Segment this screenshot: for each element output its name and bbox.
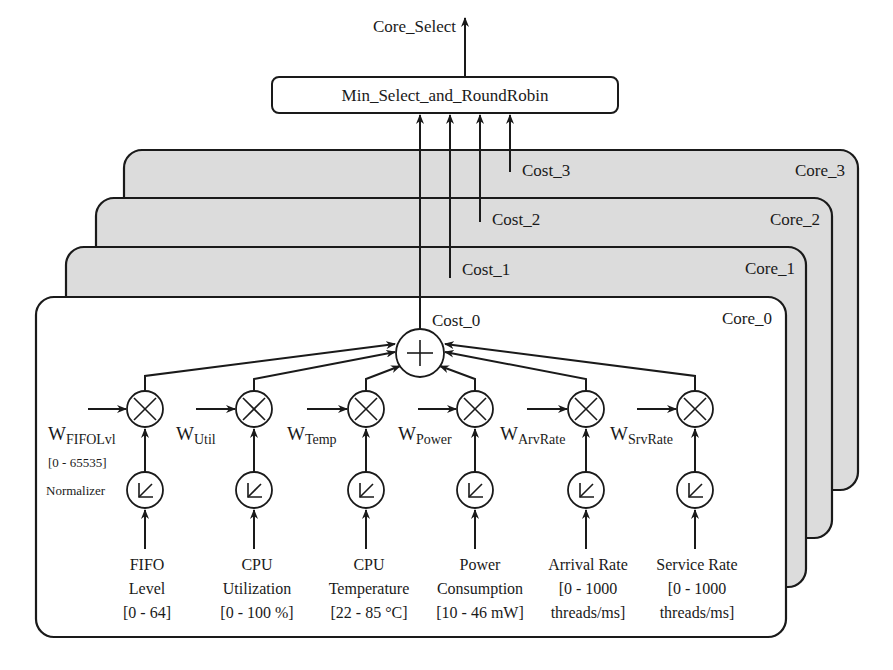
core-0-label: Core_0 — [722, 309, 772, 328]
input-name-line2: Temperature — [329, 580, 410, 598]
adder-node — [396, 329, 444, 377]
input-name-line2: [0 - 1000 — [668, 580, 727, 597]
core-select-label: Core_Select — [373, 17, 456, 36]
weight-base: W — [500, 423, 518, 444]
cost-0-label: Cost_0 — [432, 311, 480, 330]
input-range: threads/ms] — [660, 604, 735, 621]
input-name-line1: CPU — [353, 556, 385, 573]
min-select-roundrobin-block: Min_Select_and_RoundRobin — [272, 77, 618, 113]
cost-3-label: Cost_3 — [522, 161, 570, 180]
weight-sub: ArvRate — [518, 432, 565, 447]
input-name-line2: Consumption — [437, 580, 523, 598]
weight-base: W — [48, 423, 66, 444]
input-name-line1: CPU — [241, 556, 273, 573]
weight-sub: SrvRate — [628, 432, 673, 447]
weight-sub: Util — [194, 432, 216, 447]
input-name-line1: Arrival Rate — [548, 556, 628, 573]
core-3-label: Core_3 — [795, 161, 845, 180]
input-name-line1: Power — [460, 556, 502, 573]
weight-base: W — [610, 423, 628, 444]
input-name-line2: Level — [129, 580, 166, 597]
cost-1-label: Cost_1 — [462, 260, 510, 279]
input-range: threads/ms] — [551, 604, 626, 621]
core-1-label: Core_1 — [745, 259, 795, 278]
input-range: [22 - 85 °C] — [330, 604, 407, 621]
weight-range-label: [0 - 65535] — [48, 455, 107, 470]
input-name-line2: Utilization — [223, 580, 291, 597]
weight-sub: Temp — [305, 432, 337, 447]
normalizer-label: Normalizer — [46, 483, 106, 498]
input-range: [0 - 100 %] — [220, 604, 293, 621]
weight-base: W — [287, 423, 305, 444]
cost-2-label: Cost_2 — [492, 210, 540, 229]
input-name-line1: FIFO — [130, 556, 165, 573]
selector-label: Min_Select_and_RoundRobin — [342, 86, 549, 105]
input-name-line1: Service Rate — [656, 556, 737, 573]
weight-base: W — [176, 423, 194, 444]
input-range: [0 - 64] — [123, 604, 171, 621]
weight-sub: Power — [416, 432, 452, 447]
weight-base: W — [398, 423, 416, 444]
weight-sub: FIFOLvl — [66, 432, 116, 447]
input-name-line2: [0 - 1000 — [559, 580, 618, 597]
core-2-label: Core_2 — [770, 210, 820, 229]
input-range: [10 - 46 mW] — [436, 604, 524, 621]
